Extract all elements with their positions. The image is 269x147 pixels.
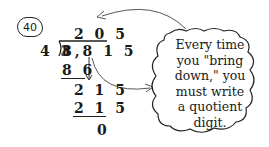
callout-line: digit. xyxy=(158,115,262,131)
callout-line: a quotient xyxy=(158,99,262,115)
callout-text: Every time you "bring down," you must wr… xyxy=(158,37,262,130)
dividend: 8,8 1 5 xyxy=(62,44,137,58)
callout-line: must write xyxy=(158,84,262,100)
problem-number-badge: 40 xyxy=(17,17,43,37)
bring-down-result: 2 1 5 xyxy=(74,83,128,97)
remainder: 0 xyxy=(97,123,110,137)
callout-line: down," you xyxy=(158,68,262,84)
subtraction-rule-2 xyxy=(73,116,106,117)
subtraction-rule-1 xyxy=(61,78,85,79)
callout-line: you "bring xyxy=(158,53,262,69)
quotient: 2 0 5 xyxy=(74,27,128,41)
callout-line: Every time xyxy=(158,37,262,53)
subtract-step-1: 8 6 xyxy=(62,63,95,77)
subtract-step-2: 2 1 5 xyxy=(74,101,128,115)
